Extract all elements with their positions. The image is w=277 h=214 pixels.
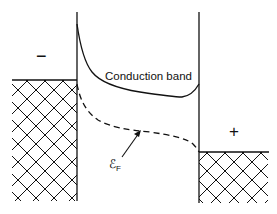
negative-sign-label: − bbox=[36, 46, 47, 67]
fermi-level-arrow bbox=[122, 130, 141, 157]
left-metal-electrode bbox=[12, 80, 77, 201]
fermi-level-curve bbox=[77, 84, 199, 152]
fermi-symbol: ℰ bbox=[109, 157, 116, 171]
conduction-band-label: Conduction band bbox=[105, 70, 192, 82]
conduction-band-curve bbox=[77, 24, 199, 97]
fermi-level-label: ℰF bbox=[109, 157, 121, 173]
right-metal-electrode bbox=[199, 152, 269, 203]
band-diagram bbox=[0, 0, 277, 214]
positive-sign-label: + bbox=[229, 122, 239, 142]
fermi-subscript: F bbox=[116, 164, 121, 173]
